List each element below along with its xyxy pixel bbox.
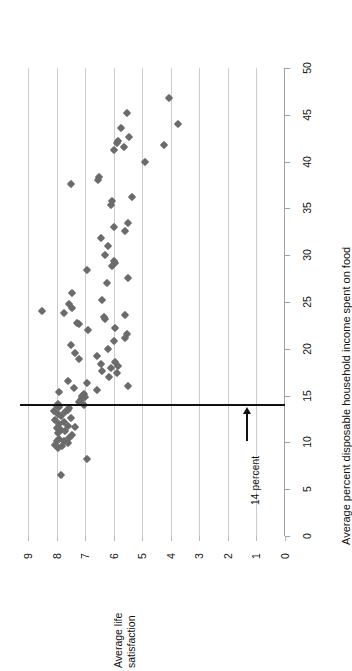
tick-food-5 <box>285 489 290 490</box>
data-point <box>97 234 105 242</box>
tick-label-food-25: 25 <box>301 296 313 308</box>
tick-label-food-0: 0 <box>301 533 313 539</box>
annotation-arrow-head <box>243 407 251 414</box>
data-point <box>165 94 173 102</box>
tick-label-food-45: 45 <box>301 109 313 121</box>
tick-label-satisfaction-3: 3 <box>193 553 205 559</box>
tick-label-satisfaction-7: 7 <box>79 553 91 559</box>
gridline-satisfaction-4 <box>171 68 172 536</box>
data-point <box>102 279 110 287</box>
tick-food-40 <box>285 162 290 163</box>
data-point <box>104 345 112 353</box>
tick-label-satisfaction-0: 0 <box>279 553 291 559</box>
data-point <box>124 273 132 281</box>
data-point <box>82 379 90 387</box>
tick-label-food-5: 5 <box>301 486 313 492</box>
annotation-arrow-shaft <box>246 411 248 441</box>
tick-satisfaction-8 <box>57 536 58 541</box>
data-point <box>59 309 67 317</box>
tick-satisfaction-7 <box>85 536 86 541</box>
data-point <box>69 384 77 392</box>
data-point <box>121 227 129 235</box>
data-point <box>98 296 106 304</box>
axis-title-food: Average percent disposable household inc… <box>340 247 352 545</box>
data-point <box>174 120 182 128</box>
tick-label-food-50: 50 <box>301 62 313 74</box>
data-point <box>109 223 117 231</box>
tick-label-satisfaction-1: 1 <box>250 553 262 559</box>
data-point <box>111 324 119 332</box>
tick-label-satisfaction-8: 8 <box>51 553 63 559</box>
data-point <box>125 133 133 141</box>
gridline-satisfaction-2 <box>228 68 229 536</box>
gridline-satisfaction-9 <box>28 68 29 536</box>
scatter-plot-area: 14 percent <box>28 68 285 536</box>
data-point <box>68 288 76 296</box>
data-point <box>67 180 75 188</box>
data-point <box>75 355 83 363</box>
tick-food-45 <box>285 115 290 116</box>
tick-food-10 <box>285 442 290 443</box>
data-point <box>92 386 100 394</box>
tick-label-food-30: 30 <box>301 249 313 261</box>
data-point <box>121 311 129 319</box>
axis-title-satisfaction-line2: satisfaction <box>125 613 138 668</box>
tick-satisfaction-9 <box>28 536 29 541</box>
gridline-satisfaction-8 <box>57 68 58 536</box>
data-point <box>97 360 105 368</box>
tick-label-food-35: 35 <box>301 203 313 215</box>
data-point <box>92 352 100 360</box>
tick-label-satisfaction-4: 4 <box>165 553 177 559</box>
tick-label-satisfaction-6: 6 <box>108 553 120 559</box>
tick-label-satisfaction-2: 2 <box>222 553 234 559</box>
tick-food-15 <box>285 396 290 397</box>
tick-satisfaction-5 <box>142 536 143 541</box>
tick-satisfaction-1 <box>256 536 257 541</box>
data-point <box>38 307 46 315</box>
data-point <box>109 337 117 345</box>
data-point <box>159 141 167 149</box>
tick-label-food-10: 10 <box>301 437 313 449</box>
data-point <box>104 242 112 250</box>
data-point <box>82 455 90 463</box>
data-point <box>128 193 136 201</box>
tick-label-food-40: 40 <box>301 156 313 168</box>
data-point <box>101 251 109 259</box>
axis-title-satisfaction: Average life satisfaction <box>112 613 138 668</box>
data-point <box>105 373 113 381</box>
data-point <box>95 172 103 180</box>
tick-food-35 <box>285 208 290 209</box>
data-point <box>64 376 72 384</box>
tick-food-25 <box>285 302 290 303</box>
gridline-satisfaction-6 <box>114 68 115 536</box>
gridline-satisfaction-7 <box>85 68 86 536</box>
tick-satisfaction-6 <box>114 536 115 541</box>
data-point <box>124 382 132 390</box>
data-point <box>109 146 117 154</box>
tick-food-0 <box>285 536 290 537</box>
data-point <box>57 471 65 479</box>
tick-food-20 <box>285 349 290 350</box>
gridline-satisfaction-3 <box>199 68 200 536</box>
tick-label-food-15: 15 <box>301 390 313 402</box>
data-point <box>117 124 125 132</box>
annotation-label-14-percent: 14 percent <box>250 456 261 505</box>
data-point <box>122 109 130 117</box>
tick-satisfaction-2 <box>228 536 229 541</box>
tick-label-satisfaction-5: 5 <box>136 553 148 559</box>
gridline-satisfaction-5 <box>142 68 143 536</box>
data-point <box>98 367 106 375</box>
tick-satisfaction-4 <box>171 536 172 541</box>
data-point <box>119 142 127 150</box>
data-point <box>82 266 90 274</box>
tick-label-food-20: 20 <box>301 343 313 355</box>
tick-label-satisfaction-9: 9 <box>22 553 34 559</box>
tick-satisfaction-3 <box>199 536 200 541</box>
tick-food-50 <box>285 68 290 69</box>
axis-title-satisfaction-line1: Average life <box>112 613 125 668</box>
tick-food-30 <box>285 255 290 256</box>
